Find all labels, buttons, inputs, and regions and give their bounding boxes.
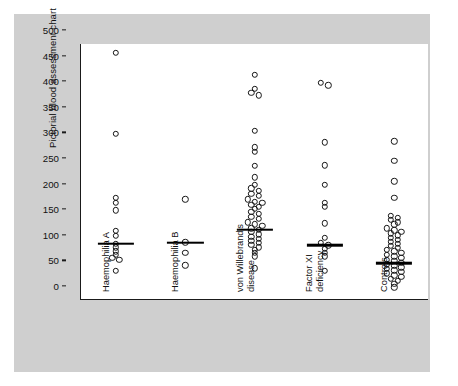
x-tick-label-4: Factor XIdeficiency xyxy=(304,206,325,292)
x-tick-label-2: Haemophilia B xyxy=(170,206,181,292)
data-point xyxy=(252,148,258,154)
y-tick-label: 500 xyxy=(4,25,66,36)
y-tick-label: 450 xyxy=(4,50,66,61)
data-point xyxy=(252,174,258,180)
data-point xyxy=(391,138,397,144)
y-tick-label: 250 xyxy=(4,153,66,164)
data-point xyxy=(321,139,327,145)
data-point xyxy=(318,80,324,86)
y-tick-mark xyxy=(62,209,67,210)
x-tick-label-line: Factor XI xyxy=(304,206,315,292)
y-tick-label: 400 xyxy=(4,76,66,87)
data-point xyxy=(182,250,188,256)
data-point xyxy=(391,178,397,184)
y-tick-mark xyxy=(62,285,67,286)
data-point xyxy=(252,163,258,169)
data-point xyxy=(113,233,119,239)
data-point xyxy=(113,207,119,213)
y-tick-mark xyxy=(62,132,67,133)
data-point xyxy=(113,130,119,136)
y-tick-mark xyxy=(62,106,67,107)
data-point xyxy=(391,284,397,290)
y-tick-mark xyxy=(62,260,67,261)
y-tick-mark xyxy=(62,157,67,158)
figure-canvas: Pictorial blood assessment chart 0501001… xyxy=(0,0,458,386)
data-point xyxy=(116,257,122,263)
y-tick-mark xyxy=(62,55,67,56)
x-tick-label-line: disease xyxy=(245,206,256,292)
x-tick-label-1: Haemophilia A xyxy=(101,206,112,292)
x-tick-label-line: Haemophilia B xyxy=(170,206,181,292)
chart-panel-background: Pictorial blood assessment chart 0501001… xyxy=(14,14,430,372)
y-tick-mark xyxy=(62,234,67,235)
x-tick-label-line: von Willebrand's xyxy=(235,206,246,292)
x-tick-label-line: deficiency xyxy=(315,206,326,292)
x-tick-label-line: Haemophilia A xyxy=(101,206,112,292)
y-tick-label: 300 xyxy=(4,127,66,138)
x-tick-label-line: Controls xyxy=(379,206,390,292)
y-tick-label: 50 xyxy=(4,255,66,266)
data-point xyxy=(391,158,397,164)
y-axis-label: Pictorial blood assessment chart xyxy=(47,0,58,148)
data-point xyxy=(321,182,327,188)
x-tick-label-5: Controls xyxy=(379,206,390,292)
data-point xyxy=(113,200,119,206)
y-tick-label: 150 xyxy=(4,204,66,215)
data-point xyxy=(182,262,188,268)
x-tick-label-3: von Willebrand'sdisease xyxy=(235,206,256,292)
y-tick-label: 100 xyxy=(4,229,66,240)
data-point xyxy=(248,89,254,95)
data-point xyxy=(252,128,258,134)
data-point xyxy=(113,268,119,274)
data-point xyxy=(113,50,119,56)
data-point xyxy=(391,194,397,200)
data-point xyxy=(325,82,331,88)
y-tick-label: 0 xyxy=(4,281,66,292)
data-point xyxy=(321,162,327,168)
y-tick-mark xyxy=(62,183,67,184)
y-tick-label: 350 xyxy=(4,101,66,112)
y-tick-mark xyxy=(62,81,67,82)
y-tick-mark xyxy=(62,29,67,30)
data-point xyxy=(252,72,258,78)
data-point xyxy=(255,92,261,98)
y-tick-label: 200 xyxy=(4,178,66,189)
data-point xyxy=(182,196,188,202)
